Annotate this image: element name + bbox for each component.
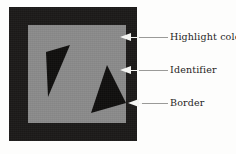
callout-identifier: Identifier — [108, 65, 236, 77]
leader-line — [142, 103, 168, 104]
callout-border: Border — [108, 98, 236, 110]
callout-label: Identifier — [170, 63, 217, 76]
callout-label: Highlight color — [170, 30, 236, 43]
identifier-triangle-left — [46, 45, 70, 97]
callout-highlight-color: Highlight color — [108, 32, 236, 44]
leader-line — [139, 70, 168, 71]
figure-screenshot: Highlight color Identifier Border — [0, 0, 236, 154]
leader-line — [139, 37, 168, 38]
callout-label: Border — [170, 96, 204, 109]
